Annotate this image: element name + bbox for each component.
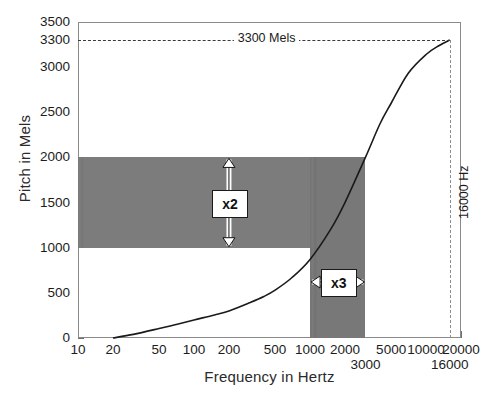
y-tick-label: 1000: [8, 240, 70, 255]
x-tick-label: 20000: [442, 342, 480, 357]
x-tick-label: 10: [70, 342, 85, 357]
hz-16000-annotation: 16000 Hz: [457, 165, 471, 219]
x-tick-label: 200: [218, 342, 241, 357]
y-tick-label: 3000: [8, 59, 70, 74]
x2-annotation-box: x2: [212, 190, 248, 218]
y-tick-label: 0: [8, 330, 70, 345]
y-tick-label: 1500: [8, 195, 70, 210]
y-tick-label: 2500: [8, 104, 70, 119]
mels-3300-annotation: 3300 Mels: [234, 31, 300, 45]
x3-arrow-head-left: [311, 276, 320, 288]
y-tick-label: 3500: [8, 14, 70, 29]
x-tick-label: 100: [183, 342, 206, 357]
x3-annotation-box: x3: [321, 269, 357, 297]
x-tick-label: 16000: [431, 357, 469, 372]
y-tick-label: 500: [8, 285, 70, 300]
x3-arrow-head-right: [355, 276, 364, 288]
y-tick-label: 3300: [8, 32, 70, 47]
x-tick-label: 10000: [407, 342, 445, 357]
plot-area: [78, 22, 461, 338]
x2-arrow-head-up: [223, 158, 235, 167]
x-tick-label: 500: [264, 342, 287, 357]
y-tick-label: 2000: [8, 149, 70, 164]
x2-arrow-head-down: [223, 238, 235, 247]
y-tick-mark: [78, 338, 84, 339]
x-tick-label: 20: [105, 342, 120, 357]
x-tick-mark-major: [461, 331, 462, 338]
x-tick-label: 1000: [295, 342, 325, 357]
chart-figure: Pitch in Mels Frequency in Hertz 0500100…: [0, 0, 496, 402]
x-tick-label: 2000: [330, 342, 360, 357]
arrow-layer: [78, 22, 461, 338]
x-tick-label: 3000: [350, 357, 380, 372]
x-tick-label: 50: [152, 342, 167, 357]
x-axis-title: Frequency in Hertz: [78, 368, 461, 385]
x-tick-label: 5000: [376, 342, 406, 357]
